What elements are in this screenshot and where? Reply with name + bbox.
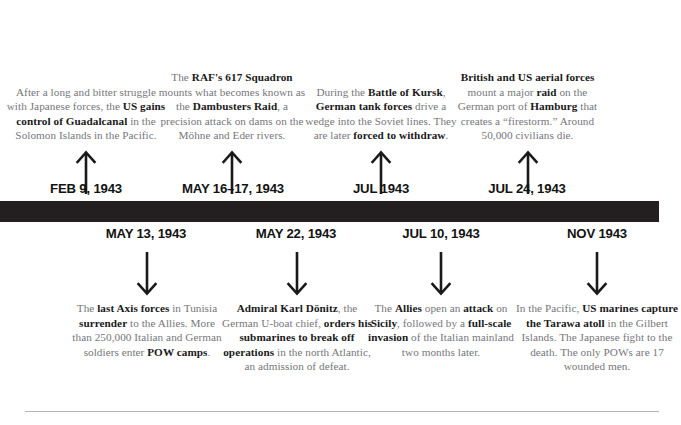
date-label-above-3: JUL 1943	[353, 181, 409, 196]
event-above-2: The RAF's 617 Squadron mounts what becom…	[154, 8, 310, 194]
date-label-above-1: FEB 9, 1943	[50, 181, 122, 196]
date-label-below-4: NOV 1943	[567, 226, 627, 241]
arrow-down-icon	[285, 252, 309, 296]
timeline-bar	[0, 201, 659, 222]
event-blurb: In the Pacific, US marines capture the T…	[513, 301, 681, 374]
bottom-divider-rule	[25, 411, 659, 412]
event-below-4: In the Pacific, US marines capture the T…	[513, 248, 681, 374]
arrow-down-icon	[585, 252, 609, 296]
event-blurb: British and US aerial forces mount a maj…	[449, 70, 606, 143]
event-blurb: The RAF's 617 Squadron mounts what becom…	[154, 70, 310, 143]
event-above-3: During the Battle of Kursk, German tank …	[305, 8, 457, 194]
date-label-above-4: JUL 24, 1943	[488, 181, 565, 196]
event-below-2: Admiral Karl Dönitz, the German U-boat c…	[218, 248, 376, 374]
event-blurb: The last Axis forces in Tunisia surrende…	[68, 301, 226, 359]
event-blurb: Admiral Karl Dönitz, the German U-boat c…	[218, 301, 376, 374]
event-blurb: The Allies open an attack on Sicily, fol…	[364, 301, 518, 359]
event-blurb: After a long and bitter struggle with Ja…	[6, 85, 166, 143]
event-below-3: The Allies open an attack on Sicily, fol…	[364, 248, 518, 359]
date-label-above-2: MAY 16–17, 1943	[182, 181, 284, 196]
event-above-1: After a long and bitter struggle with Ja…	[6, 8, 166, 194]
event-above-4: British and US aerial forces mount a maj…	[449, 8, 606, 194]
date-label-below-2: MAY 22, 1943	[256, 226, 336, 241]
arrow-down-icon	[135, 252, 159, 296]
event-blurb: During the Battle of Kursk, German tank …	[305, 85, 457, 143]
date-label-below-1: MAY 13, 1943	[106, 226, 186, 241]
date-label-below-3: JUL 10, 1943	[402, 226, 479, 241]
arrow-down-icon	[429, 252, 453, 296]
event-below-1: The last Axis forces in Tunisia surrende…	[68, 248, 226, 359]
